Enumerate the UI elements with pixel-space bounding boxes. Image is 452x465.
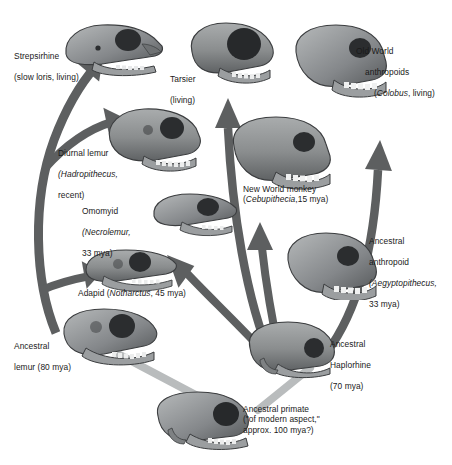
label-ancestral-anthropoid-line4: 33 mya) [369,299,452,309]
label-ancestral-lemur-line1: Ancestral [14,341,104,351]
label-diurnal-lemur-taxon: (Hadropithecus, [58,169,150,179]
label-ancestral-primate-line3: approx. 100 mya?) [243,425,363,435]
label-new-world-post: ,15 mya) [295,194,328,204]
label-ancestral-primate-line1: Ancestral primate [243,404,363,414]
label-strepsirhine-line1: Strepsirhine [14,51,124,61]
label-strepsirhine: Strepsirhine (slow loris, living) [14,41,124,93]
label-ancestral-haplorhine: Ancestral Haplorhine (70 mya) [330,329,414,402]
label-ancestral-haplorhine-line3: (70 mya) [330,381,414,391]
label-old-world-line3: (Colobus, living) [356,88,452,98]
label-omomyid-line3: 33 mya) [82,248,162,258]
label-tarsier-line2: (living) [170,95,232,105]
label-old-world-anthropoids: Old World anthropoids (Colobus, living) [356,36,452,109]
skull-new-world-monkey [228,112,340,190]
label-ancestral-anthropoid-taxon: (Aegyptopithecus, [369,278,452,288]
label-old-world-taxon: Colobus [377,88,408,98]
label-old-world-line1: Old World [356,46,452,56]
label-new-world-taxon: Cebupithecia [246,194,296,204]
label-ancestral-primate-line2: ("of modern aspect," [243,414,363,424]
label-ancestral-lemur: Ancestral lemur (80 mya) [14,331,104,383]
label-ancestral-lemur-line2: lemur (80 mya) [14,362,104,372]
label-ancestral-anthropoid: Ancestral anthropoid (Aegyptopithecus, 3… [369,226,452,320]
label-omomyid: Omomyid (Necrolemur, 33 mya) [82,196,162,269]
label-omomyid-taxon: (Necrolemur, [82,227,162,237]
label-adapid: Adapid (Notharctus, 45 mya) [78,288,218,298]
label-omomyid-line1: Omomyid [82,206,162,216]
label-new-world-line1: New World monkey [243,184,363,194]
label-adapid-pre: Adapid ( [78,288,110,298]
label-strepsirhine-line2: (slow loris, living) [14,72,124,82]
label-tarsier: Tarsier (living) [170,64,232,116]
label-old-world-post: , living) [408,88,435,98]
label-old-world-line2: anthropoids [356,67,452,77]
label-ancestral-haplorhine-line2: Haplorhine [330,360,414,370]
label-ancestral-anthropoid-line2: anthropoid [369,257,452,267]
primate-evolution-diagram: Strepsirhine (slow loris, living) Diurna… [0,0,452,465]
label-new-world-monkey: New World monkey (Cebupithecia,15 mya) [243,184,363,205]
label-ancestral-primate: Ancestral primate ("of modern aspect," a… [243,404,363,435]
label-adapid-taxon: Notharctus [110,288,151,298]
label-diurnal-lemur-line1: Diurnal lemur [58,148,150,158]
skull-ancestral-haplorhine [244,318,340,380]
skull-ancestral-anthropoid [282,228,382,300]
label-ancestral-anthropoid-line1: Ancestral [369,236,452,246]
label-tarsier-line1: Tarsier [170,74,232,84]
label-ancestral-haplorhine-line1: Ancestral [330,339,414,349]
label-new-world-line2: (Cebupithecia,15 mya) [243,194,363,204]
label-adapid-post: , 45 mya) [151,288,186,298]
skull-ancestral-primate [150,388,258,450]
